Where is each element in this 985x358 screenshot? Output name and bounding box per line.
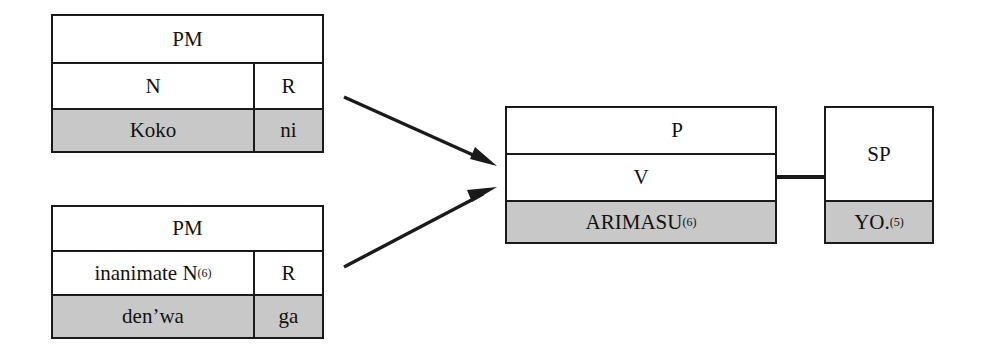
arrow-phrase-marker-2-to-predicate <box>0 0 985 358</box>
phrase-structure-diagram: PM N R Koko ni PM inanimate N(6) R den’w… <box>0 0 985 358</box>
